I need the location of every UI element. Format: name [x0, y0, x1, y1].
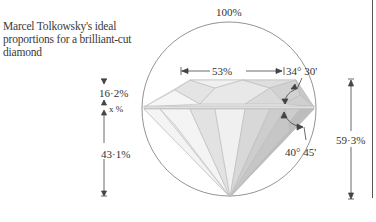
pavilion-depth-label: 43·1%	[101, 148, 130, 160]
girdle-label: x %	[109, 103, 123, 115]
total-depth-label: 59·3%	[336, 134, 365, 146]
girdle	[144, 106, 314, 109]
table-dimension	[181, 67, 284, 75]
pavilion-angle-label: 40° 45'	[285, 146, 316, 158]
page-border-line	[372, 0, 373, 198]
crown-height-label: 16·2%	[99, 87, 128, 99]
crown-angle-label: 34° 30'	[286, 65, 317, 77]
diamond-diagram	[0, 0, 376, 222]
table-label: 53%	[212, 65, 232, 77]
diameter-label: 100%	[216, 6, 242, 18]
